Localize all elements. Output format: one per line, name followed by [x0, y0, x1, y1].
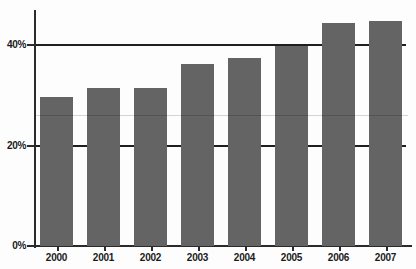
bar-2004: [228, 58, 261, 246]
bar-2005: [275, 46, 308, 246]
x-axis-label-2002: 2002: [128, 252, 173, 263]
x-tick-2006: [339, 246, 341, 251]
x-tick-2003: [198, 246, 200, 251]
x-axis-label-2006: 2006: [316, 252, 361, 263]
bar-2007: [369, 21, 402, 246]
x-tick-2002: [151, 246, 153, 251]
x-tick-2005: [292, 246, 294, 251]
x-tick-2004: [245, 246, 247, 251]
bar-chart: 40% 20% 0% 20002001200220032004200520062…: [0, 0, 416, 269]
bar-2003: [181, 64, 214, 246]
x-axis-label-2005: 2005: [269, 252, 314, 263]
bar-2002: [134, 88, 167, 246]
x-axis-label-2007: 2007: [363, 252, 408, 263]
bar-2006: [322, 23, 355, 246]
bar-2001: [87, 88, 120, 246]
bar-2000: [40, 97, 73, 246]
x-axis-label-2001: 2001: [81, 252, 126, 263]
x-tick-2001: [104, 246, 106, 251]
x-tick-2000: [57, 246, 59, 251]
x-axis-label-2000: 2000: [34, 252, 79, 263]
x-axis-label-2003: 2003: [175, 252, 220, 263]
x-tick-2007: [386, 246, 388, 251]
x-axis-label-2004: 2004: [222, 252, 267, 263]
bars-layer: [0, 0, 416, 269]
